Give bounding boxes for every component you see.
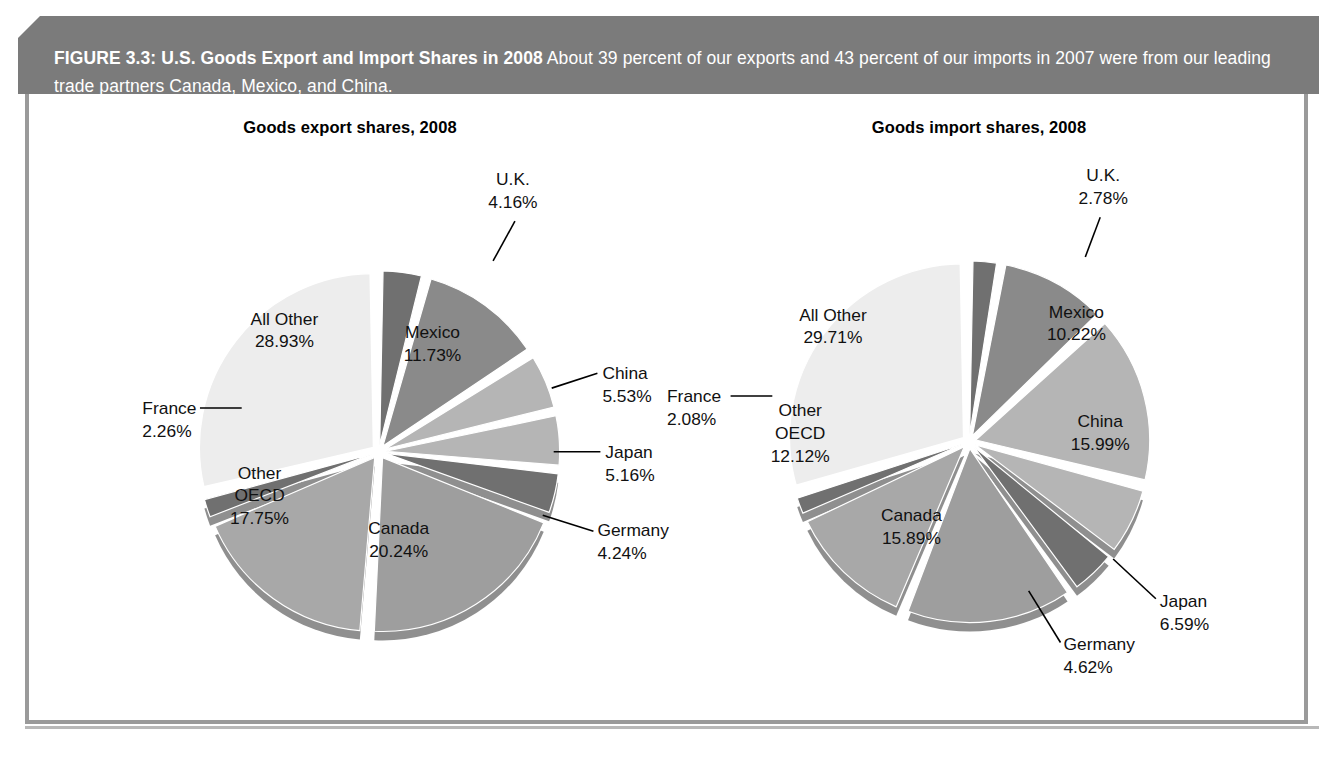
slice-label-japan: Japan bbox=[605, 442, 652, 462]
slice-value-mexico: 10.22% bbox=[1047, 324, 1106, 344]
figure-content-panel: Goods export shares, 2008 U.K.4.16%Mexic… bbox=[25, 94, 1308, 724]
slice-value-china: 15.99% bbox=[1071, 434, 1130, 454]
slice-value-japan: 6.59% bbox=[1160, 614, 1209, 634]
leader-line-u-k bbox=[1085, 217, 1100, 257]
export-pie-svg: U.K.4.16%Mexico11.73%China5.53%Japan5.16… bbox=[29, 94, 671, 720]
slice-value-other-oecd: 12.12% bbox=[771, 446, 830, 466]
slice-value-germany: 4.24% bbox=[597, 543, 646, 563]
export-pie-chart: Goods export shares, 2008 U.K.4.16%Mexic… bbox=[29, 94, 671, 720]
slice-label-other-oecd-line2: OECD bbox=[234, 485, 284, 505]
bottom-rule bbox=[25, 726, 1319, 729]
slice-label-japan: Japan bbox=[1160, 591, 1207, 611]
slice-label-all-other: All Other bbox=[251, 309, 319, 329]
slice-value-u-k: 4.16% bbox=[488, 192, 537, 212]
slice-label-germany: Germany bbox=[1063, 634, 1135, 654]
slice-value-other-oecd: 17.75% bbox=[230, 508, 289, 528]
slice-label-mexico: Mexico bbox=[1049, 302, 1104, 322]
slice-value-canada: 15.89% bbox=[882, 528, 941, 548]
pie-slice-all-other bbox=[199, 274, 373, 487]
slice-label-china: China bbox=[602, 363, 648, 383]
leader-line-china bbox=[552, 373, 598, 388]
import-pie-chart: Goods import shares, 2008 U.K.2.78%Mexic… bbox=[649, 94, 1309, 720]
slice-label-mexico: Mexico bbox=[405, 322, 460, 342]
slice-label-france: France bbox=[142, 398, 196, 418]
slice-value-germany: 4.62% bbox=[1063, 657, 1112, 677]
slice-value-china: 5.53% bbox=[602, 386, 651, 406]
slice-label-u-k: U.K. bbox=[1086, 165, 1120, 185]
leader-line-germany bbox=[543, 515, 594, 531]
slice-value-france: 2.26% bbox=[142, 421, 191, 441]
slice-label-other-oecd-line1: Other bbox=[778, 400, 822, 420]
slice-label-other-oecd-line1: Other bbox=[238, 463, 282, 483]
slice-value-mexico: 11.73% bbox=[404, 345, 462, 365]
slice-value-all-other: 28.93% bbox=[255, 331, 314, 351]
slice-label-u-k: U.K. bbox=[496, 169, 530, 189]
slice-value-canada: 20.24% bbox=[369, 541, 428, 561]
slice-value-france: 2.08% bbox=[667, 409, 716, 429]
slice-value-u-k: 2.78% bbox=[1079, 188, 1128, 208]
slice-label-other-oecd-line2: OECD bbox=[775, 423, 825, 443]
slice-label-all-other: All Other bbox=[799, 305, 867, 325]
figure-banner: FIGURE 3.3: U.S. Goods Export and Import… bbox=[18, 16, 1319, 94]
slice-value-japan: 5.16% bbox=[605, 465, 654, 485]
slice-label-china: China bbox=[1078, 411, 1124, 431]
slice-value-all-other: 29.71% bbox=[803, 327, 862, 347]
slice-label-france: France bbox=[667, 386, 721, 406]
figure-banner-text: FIGURE 3.3: U.S. Goods Export and Import… bbox=[54, 44, 1284, 100]
slice-label-canada: Canada bbox=[368, 518, 429, 538]
leader-line-japan bbox=[1113, 559, 1156, 599]
import-pie-svg: U.K.2.78%Mexico10.22%China15.99%Japan6.5… bbox=[649, 94, 1309, 720]
figure-label: FIGURE 3.3: U.S. Goods Export and Import… bbox=[54, 48, 543, 68]
leader-line-u-k bbox=[493, 221, 515, 261]
slice-label-canada: Canada bbox=[881, 505, 942, 525]
